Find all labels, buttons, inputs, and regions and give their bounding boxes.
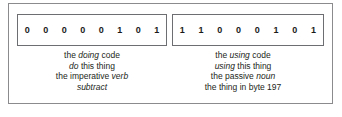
caption-line: the thing in byte 197	[205, 82, 282, 93]
caption-line: the imperative verb	[56, 71, 128, 82]
bit-cell: 0	[41, 26, 51, 35]
bit-cell: 0	[96, 26, 106, 35]
bit-cell: 1	[309, 26, 319, 35]
bit-cell: 1	[177, 26, 187, 35]
caption-emphasis: using	[215, 61, 235, 71]
caption-emphasis: verb	[112, 71, 129, 81]
bit-cell: 0	[133, 26, 143, 35]
caption-line: the doing code	[64, 50, 120, 61]
byte-encoding-figure: 00000101 11000101 the doing codedo this …	[0, 0, 342, 117]
caption-line: do this thing	[69, 61, 115, 72]
bit-cell: 0	[234, 26, 244, 35]
bit-cell: 1	[196, 26, 206, 35]
bit-cell: 0	[78, 26, 88, 35]
byte-box-using-code: 11000101	[172, 14, 324, 46]
caption-emphasis: do	[69, 61, 78, 71]
bit-cell: 1	[115, 26, 125, 35]
caption-text: the imperative	[56, 71, 112, 81]
byte-boxes-row: 00000101 11000101	[8, 14, 333, 46]
bit-cell: 0	[59, 26, 69, 35]
caption-line: subtract	[77, 82, 107, 93]
caption-emphasis: subtract	[77, 82, 107, 92]
caption-text: the passive	[211, 71, 256, 81]
captions-row: the doing codedo this thingthe imperativ…	[8, 50, 333, 98]
caption-doing-code: the doing codedo this thingthe imperativ…	[17, 50, 167, 98]
caption-text: code	[250, 50, 271, 60]
caption-emphasis: using	[230, 50, 250, 60]
caption-text: the	[64, 50, 78, 60]
caption-line: the using code	[215, 50, 270, 61]
caption-text: this thing	[79, 61, 115, 71]
bit-cell: 1	[152, 26, 162, 35]
bit-cell: 0	[252, 26, 262, 35]
caption-text: the	[215, 50, 229, 60]
bit-cell: 1	[271, 26, 281, 35]
caption-text: this thing	[235, 61, 271, 71]
caption-using-code: the using codeusing this thingthe passiv…	[167, 50, 319, 98]
caption-text: code	[99, 50, 120, 60]
caption-emphasis: doing	[78, 50, 99, 60]
bit-cell: 0	[290, 26, 300, 35]
caption-emphasis: noun	[256, 71, 275, 81]
caption-line: the passive noun	[211, 71, 275, 82]
byte-box-doing-code: 00000101	[17, 14, 167, 46]
bit-cell: 0	[215, 26, 225, 35]
caption-line: using this thing	[215, 61, 272, 72]
caption-text: the thing in byte 197	[205, 82, 282, 92]
bit-cell: 0	[22, 26, 32, 35]
